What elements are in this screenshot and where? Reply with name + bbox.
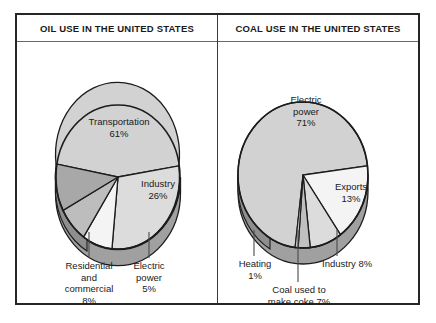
- callout-heating: Heating 1%: [220, 258, 290, 281]
- panel-container: OIL USE IN THE UNITED STATES: [17, 15, 418, 303]
- panel-coal: COAL USE IN THE UNITED STATES: [218, 15, 418, 303]
- pie-chart-oil: Transportation 61% Industry 26% Resident…: [17, 42, 217, 306]
- callout-coke: Coal used to make coke 7%: [244, 284, 354, 307]
- panel-title-oil: OIL USE IN THE UNITED STATES: [17, 15, 217, 42]
- label-exports: Exports 13%: [318, 181, 384, 204]
- pie-chart-coal: Electric power 71% Exports 13% Heating 1…: [218, 42, 418, 306]
- label-industry: Industry 26%: [125, 178, 191, 201]
- callout-electric-power: Electric power 5%: [113, 260, 185, 295]
- figure-frame: OIL USE IN THE UNITED STATES: [15, 13, 420, 305]
- panel-oil: OIL USE IN THE UNITED STATES: [17, 15, 218, 303]
- label-electric-power: Electric power 71%: [263, 94, 349, 129]
- callout-industry: Industry 8%: [322, 258, 412, 270]
- label-transportation: Transportation 61%: [69, 116, 169, 139]
- panel-title-coal: COAL USE IN THE UNITED STATES: [218, 15, 418, 42]
